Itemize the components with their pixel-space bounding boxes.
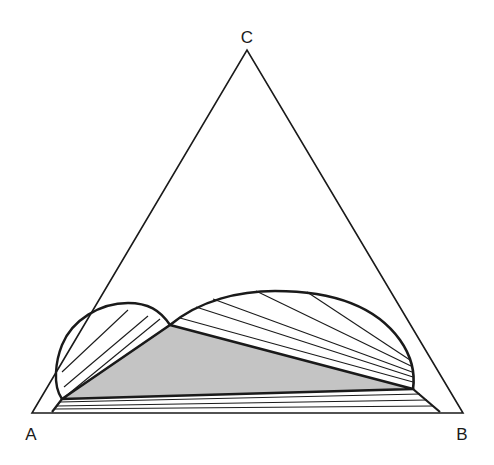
three-phase-region	[62, 325, 413, 399]
tie-line-bottom-band	[55, 406, 433, 409]
ternary-phase-diagram	[0, 0, 494, 465]
vertex-label-c: C	[241, 29, 253, 46]
vertex-label-a: A	[25, 426, 36, 443]
vertex-label-b: B	[456, 426, 467, 443]
three-phase-triangle	[62, 325, 413, 399]
tie-line-right-lobe	[307, 292, 410, 360]
